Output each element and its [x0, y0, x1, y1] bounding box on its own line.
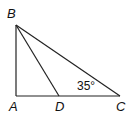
- triangle-diagram: B A D C 35°: [0, 0, 130, 115]
- segment-bc: [16, 25, 120, 96]
- label-c: C: [116, 99, 126, 114]
- segment-bd: [16, 25, 59, 96]
- label-b: B: [7, 6, 16, 21]
- label-a: A: [8, 99, 18, 114]
- label-d: D: [55, 99, 64, 114]
- angle-c-label: 35°: [77, 79, 95, 93]
